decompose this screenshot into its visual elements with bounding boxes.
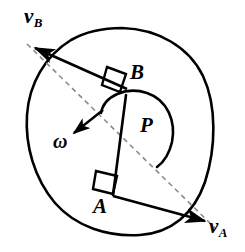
velocity-b-label: vB: [24, 6, 43, 29]
point-b-label: B: [130, 62, 144, 83]
velocity-a-symbol: v: [209, 214, 218, 238]
point-p-label: P: [140, 115, 153, 136]
omega-label: ω: [53, 131, 67, 151]
figure-container: vB vA B A P ω: [0, 0, 245, 252]
velocity-b-subscript: B: [33, 15, 42, 30]
velocity-a-subscript: A: [218, 225, 227, 240]
velocity-a-label: vA: [209, 216, 228, 239]
rotation-arc: [101, 91, 173, 167]
velocity-b-symbol: v: [24, 4, 33, 28]
omega-arrow: [74, 110, 103, 133]
point-a-label: A: [93, 196, 107, 217]
